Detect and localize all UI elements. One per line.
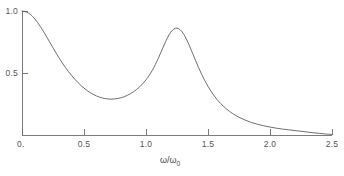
x-tick-label-2.0: 2.0 <box>264 139 276 149</box>
y-axis-tick-labels: 1.0 0.5 <box>6 6 18 78</box>
x-axis-title: ω/ω0 <box>160 155 181 167</box>
x-axis-title-subscript: 0 <box>176 160 180 167</box>
y-axis-ticks <box>22 11 28 73</box>
y-tick-label-1.0: 1.0 <box>6 6 18 16</box>
line-chart-plot: 0. 0.5 1.0 1.5 2.0 2.5 1.0 0.5 ω/ω0 <box>0 0 344 176</box>
x-tick-label-0.5: 0.5 <box>78 139 90 149</box>
x-axis-title-main: ω/ω <box>160 155 177 165</box>
x-tick-label-1.0: 1.0 <box>140 139 152 149</box>
x-axis-tick-labels: 0. 0.5 1.0 1.5 2.0 2.5 <box>17 139 338 149</box>
x-tick-label-0: 0. <box>17 139 25 149</box>
y-tick-label-0.5: 0.5 <box>6 68 18 78</box>
data-series-curve <box>22 11 332 135</box>
x-tick-label-1.5: 1.5 <box>202 139 214 149</box>
chart-figure: 0. 0.5 1.0 1.5 2.0 2.5 1.0 0.5 ω/ω0 <box>0 0 344 176</box>
x-tick-label-2.5: 2.5 <box>326 139 338 149</box>
x-axis-ticks <box>22 129 332 135</box>
